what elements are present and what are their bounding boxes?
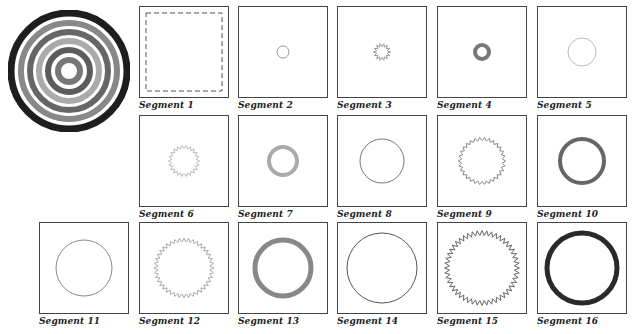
segment-label: Segment 10 (537, 209, 627, 219)
segment-label: Segment 1 (139, 100, 229, 110)
segment-frame (238, 222, 328, 314)
segment-panel: Segment 4 (437, 6, 527, 110)
segment-panel: Segment 15 (437, 222, 527, 326)
segment-panel: Segment 12 (139, 222, 229, 326)
segment-label: Segment 8 (337, 209, 427, 219)
segment-panel: Segment 9 (437, 115, 527, 219)
segment-label: Segment 5 (537, 100, 627, 110)
segment-frame (238, 115, 328, 207)
segment-panel: Segment 3 (337, 6, 427, 110)
segment-label: Segment 11 (39, 316, 129, 326)
segment-frame (537, 222, 627, 314)
segment-frame (537, 6, 627, 98)
concentric-rings-icon (8, 10, 130, 132)
circle-icon (338, 223, 426, 313)
segment-frame (139, 6, 229, 98)
segment-frame (139, 115, 229, 207)
segment-panel: Segment 14 (337, 222, 427, 326)
circle-icon (239, 223, 327, 313)
segment-label: Segment 15 (437, 316, 527, 326)
dashed-square-icon (140, 7, 228, 97)
segment-panel: Segment 2 (238, 6, 328, 110)
segment-label: Segment 6 (139, 209, 229, 219)
segment-frame (337, 222, 427, 314)
segment-label: Segment 2 (238, 100, 328, 110)
circle-icon (40, 223, 128, 313)
target-ring (58, 60, 80, 82)
segment-panel: Segment 16 (537, 222, 627, 326)
segment-frame (337, 115, 427, 207)
circle-icon (438, 7, 526, 97)
segment-frame (437, 222, 527, 314)
segment-label: Segment 13 (238, 316, 328, 326)
segment-panel: Segment 11 (39, 222, 129, 326)
zigzag-circle-icon (140, 116, 228, 206)
segment-panel: Segment 13 (238, 222, 328, 326)
segment-panel: Segment 7 (238, 115, 328, 219)
target-ring (48, 50, 90, 92)
segment-label: Segment 9 (437, 209, 527, 219)
concentric-target-figure (8, 10, 130, 132)
circle-icon (239, 116, 327, 206)
circle-icon (538, 7, 626, 97)
segment-frame (537, 115, 627, 207)
segment-label: Segment 7 (238, 209, 328, 219)
segment-panel: Segment 1 (139, 6, 229, 110)
zigzag-circle-icon (140, 223, 228, 313)
segment-panel: Segment 5 (537, 6, 627, 110)
segment-label: Segment 3 (337, 100, 427, 110)
target-ring (21, 23, 117, 119)
zigzag-circle-icon (438, 116, 526, 206)
segment-label: Segment 14 (337, 316, 427, 326)
segment-label: Segment 12 (139, 316, 229, 326)
segment-panel: Segment 10 (537, 115, 627, 219)
segment-panel: Segment 8 (337, 115, 427, 219)
segment-label: Segment 16 (537, 316, 627, 326)
segment-frame (139, 222, 229, 314)
segment-frame (437, 115, 527, 207)
segment-frame (437, 6, 527, 98)
segment-frame (238, 6, 328, 98)
zigzag-circle-icon (438, 223, 526, 313)
segment-panel: Segment 6 (139, 115, 229, 219)
circle-icon (338, 116, 426, 206)
segment-label: Segment 4 (437, 100, 527, 110)
zigzag-circle-icon (338, 7, 426, 97)
circle-icon (538, 116, 626, 206)
circle-icon (538, 223, 626, 313)
circle-icon (239, 7, 327, 97)
segment-frame (39, 222, 129, 314)
segment-frame (337, 6, 427, 98)
